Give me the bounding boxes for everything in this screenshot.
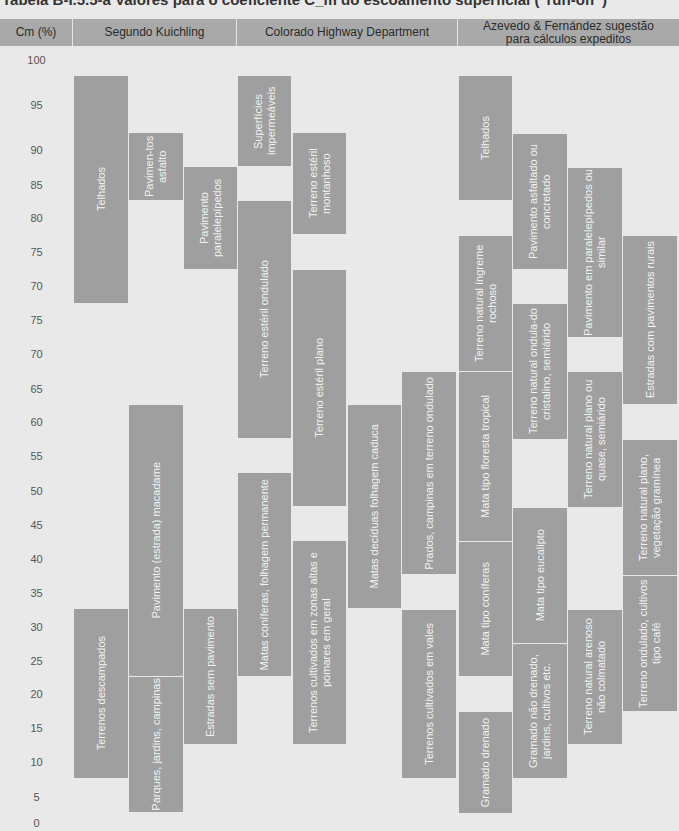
range-block-label: Prados, campinas em terreno ondulado — [423, 377, 436, 570]
y-tick-label: 0 — [0, 817, 73, 829]
y-tick-label: 60 — [0, 416, 73, 428]
range-block-label: Pavimento em paralelepípedos ou similar — [582, 168, 608, 337]
range-block-label: Terreno natural ondula-do cristalino, se… — [527, 304, 553, 439]
range-block: Pavimento (estrada) macadame — [129, 405, 183, 676]
range-block: Terreno natural plano, vegetação gramíne… — [623, 440, 677, 575]
y-tick-label: 20 — [0, 688, 73, 700]
range-block-label: Terreno ondulado, cultivos tipo café — [637, 576, 663, 711]
range-block: Terrenos cultivados em vales — [402, 610, 456, 778]
range-block-label: Terrenos cultivados em vales — [423, 623, 436, 765]
range-block: Terrenos cultivados em zonas altas e pom… — [293, 541, 346, 744]
y-tick-label: 30 — [0, 621, 73, 633]
range-block-label: Pavimento asfaltado ou concretado — [527, 134, 553, 269]
y-tick-label: 90 — [0, 144, 73, 156]
range-block: Terreno estéril montanhoso — [293, 133, 346, 234]
range-block: Terreno estéril ondulado — [238, 201, 291, 438]
range-block-label: Estradas sem pavimento — [204, 616, 217, 737]
header-axis-cm: Cm (%) — [0, 19, 73, 46]
range-block-label: Telhados — [95, 167, 108, 211]
range-block: Mata tipo coníferas — [459, 542, 512, 676]
range-block-label: Mata tipo eucalipto — [534, 529, 547, 621]
range-block-label: Terrenos descampados — [95, 636, 108, 750]
range-block: Terreno natural ondula-do cristalino, se… — [513, 304, 567, 439]
y-tick-label: 50 — [0, 485, 73, 497]
y-tick-label: 70 — [0, 280, 73, 292]
table-header: Cm (%) Segundo Kuichling Colorado Highwa… — [0, 19, 679, 46]
range-block-label: Pavimento paralelepípedos — [198, 167, 224, 269]
y-tick-label: 40 — [0, 553, 73, 565]
header-colorado: Colorado Highway Department — [237, 19, 458, 46]
range-block: Telhados — [74, 76, 128, 303]
range-block: Terreno ondulado, cultivos tipo café — [623, 576, 677, 711]
range-block: Prados, campinas em terreno ondulado — [402, 372, 456, 574]
range-block: Mata tipo floresta tropical — [459, 372, 512, 541]
range-block: Gramado drenado — [459, 712, 512, 813]
range-block: Matas decíduas folhagem caduca — [348, 405, 401, 608]
y-tick-label: 5 — [0, 791, 73, 803]
y-tick-label: 75 — [0, 246, 73, 258]
y-tick-label: 80 — [0, 212, 73, 224]
y-tick-label: 45 — [0, 519, 73, 531]
range-block: Terreno natural íngreme rochoso — [459, 236, 512, 371]
range-block: Telhados — [459, 76, 512, 200]
range-block: Terreno estéril plano — [293, 270, 346, 506]
range-block: Pavimento asfaltado ou concretado — [513, 134, 567, 269]
range-block: Pavimento em paralelepípedos ou similar — [568, 168, 622, 337]
range-block-label: Gramado não drenado, jardins, cultivos e… — [527, 644, 553, 778]
range-block-label: Pavimen-tos asfalto — [143, 133, 169, 200]
range-block: Estradas sem pavimento — [184, 609, 237, 744]
header-azevedo: Azevedo & Fernández sugestão para cálcul… — [458, 19, 679, 46]
range-block: Terreno natural plano ou quase, semiárid… — [568, 372, 622, 507]
range-block-label: Matas coníferas, folhagem permanente — [258, 479, 271, 670]
range-block-label: Parques, jardins, campinas — [150, 678, 163, 811]
range-block-label: Terreno estéril ondulado — [258, 260, 271, 378]
range-block: Terrenos descampados — [74, 609, 128, 778]
range-block: Terreno natural arenoso não colmatado — [568, 610, 622, 744]
header-kuichling: Segundo Kuichling — [73, 19, 237, 46]
y-tick-label: 35 — [0, 587, 73, 599]
range-block-label: Telhados — [479, 116, 492, 160]
range-block-label: Terreno natural arenoso não colmatado — [582, 610, 608, 744]
range-block-label: Pavimento (estrada) macadame — [150, 462, 163, 619]
range-block: Gramado não drenado, jardins, cultivos e… — [513, 644, 567, 778]
range-block-label: Mata tipo floresta tropical — [479, 395, 492, 518]
range-block-label: Superfícies impermeáveis — [252, 76, 278, 166]
range-block-label: Terrenos cultivados em zonas altas e pom… — [307, 541, 333, 744]
range-block-label: Terreno natural íngreme rochoso — [473, 236, 499, 371]
y-tick-label: 75 — [0, 314, 73, 326]
y-tick-label: 85 — [0, 179, 73, 191]
table-caption: Tabela B-I.5.5-a Valores para o coeficie… — [0, 0, 679, 9]
range-block-label: Terreno natural plano ou quase, semiárid… — [582, 372, 608, 507]
range-block: Pavimen-tos asfalto — [129, 133, 183, 200]
range-block-label: Estradas com pavimentos rurais — [644, 241, 657, 398]
range-block-label: Terreno estéril montanhoso — [307, 133, 333, 234]
y-tick-label: 15 — [0, 722, 73, 734]
y-tick-label: 100 — [0, 54, 73, 66]
y-tick-label: 55 — [0, 450, 73, 462]
y-tick-label: 65 — [0, 383, 73, 395]
y-tick-label: 95 — [0, 99, 73, 111]
range-block: Mata tipo eucalipto — [513, 508, 567, 643]
y-tick-label: 70 — [0, 348, 73, 360]
range-block-label: Gramado drenado — [479, 718, 492, 807]
range-block: Estradas com pavimentos rurais — [623, 236, 677, 404]
range-block: Pavimento paralelepípedos — [184, 167, 237, 269]
range-block: Matas coníferas, folhagem permanente — [238, 473, 291, 676]
y-tick-label: 25 — [0, 655, 73, 667]
range-block: Superfícies impermeáveis — [238, 76, 291, 166]
range-block-label: Mata tipo coníferas — [479, 562, 492, 656]
range-block-label: Terreno natural plano, vegetação gramíne… — [637, 440, 663, 575]
range-block-label: Terreno estéril plano — [313, 338, 326, 438]
y-tick-label: 10 — [0, 756, 73, 768]
range-block-label: Matas decíduas folhagem caduca — [368, 424, 381, 589]
range-block: Parques, jardins, campinas — [129, 677, 183, 812]
